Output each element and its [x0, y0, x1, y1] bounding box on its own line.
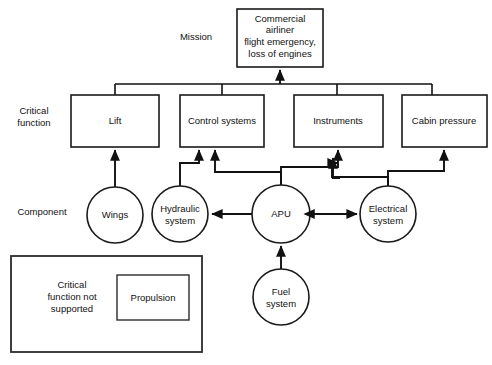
row-label-mission-text: Mission	[180, 31, 212, 42]
edge-electrical-to-instruments-stub	[332, 163, 388, 186]
legend-caption-line1: Critical	[57, 279, 86, 290]
apu-label: APU	[271, 208, 291, 219]
row-label-critical-function-line2: function	[17, 117, 50, 128]
mission-text-line2: airliner	[266, 24, 295, 35]
electrical-system-label-line1: Electrical	[369, 203, 408, 214]
edge-apu-to-control-systems	[215, 150, 281, 186]
row-label-component-text: Component	[17, 206, 66, 217]
fuel-system-label-line1: Fuel	[272, 286, 290, 297]
row-label-critical-function: Critical function	[17, 105, 50, 128]
node-hydraulic-system[interactable]: Hydraulic system	[152, 186, 208, 242]
row-label-mission: Mission	[180, 31, 212, 42]
node-control-systems[interactable]: Control systems	[180, 95, 264, 147]
hydraulic-system-label-line1: Hydraulic	[160, 203, 200, 214]
instruments-label: Instruments	[313, 115, 363, 126]
edge-apu-to-instruments	[281, 150, 338, 186]
mission-text-line3: flight emergency,	[244, 36, 316, 47]
node-electrical-system[interactable]: Electrical system	[360, 186, 416, 242]
legend-caption-line2: function not	[47, 291, 96, 302]
wings-label: Wings	[102, 209, 129, 220]
edge-electrical-to-cabin-pressure	[388, 150, 444, 186]
dependency-diagram: Mission Critical function Component Comm…	[0, 0, 492, 365]
legend-caption-line3: supported	[51, 303, 93, 314]
hydraulic-system-label-line2: system	[165, 215, 195, 226]
mission-text-line1: Commercial	[255, 13, 306, 24]
cabin-pressure-label: Cabin pressure	[412, 115, 476, 126]
diagram-canvas: Mission Critical function Component Comm…	[0, 0, 492, 365]
node-lift[interactable]: Lift	[71, 95, 159, 147]
mission-text-line4: loss of engines	[248, 48, 312, 59]
control-systems-label: Control systems	[188, 115, 256, 126]
electrical-system-label-line2: system	[373, 215, 403, 226]
legend-critical-function-not-supported: Critical function not supported Propulsi…	[11, 256, 202, 352]
edge-hydraulic-to-control-systems	[180, 150, 199, 186]
row-label-component: Component	[17, 206, 66, 217]
node-cabin-pressure[interactable]: Cabin pressure	[402, 95, 487, 147]
fuel-system-label-line2: system	[266, 298, 296, 309]
node-mission[interactable]: Commercial airliner flight emergency, lo…	[237, 9, 323, 67]
legend-item-label: Propulsion	[131, 292, 176, 303]
node-instruments[interactable]: Instruments	[294, 95, 383, 147]
node-apu[interactable]: APU	[252, 185, 310, 243]
lift-label: Lift	[109, 115, 122, 126]
row-label-critical-function-line1: Critical	[19, 105, 48, 116]
node-wings[interactable]: Wings	[87, 187, 143, 243]
node-fuel-system[interactable]: Fuel system	[253, 269, 309, 325]
